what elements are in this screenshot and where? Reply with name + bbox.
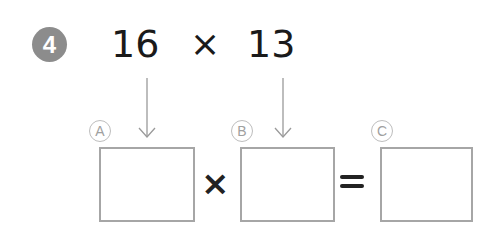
answer-box-a[interactable] (99, 147, 195, 222)
label-b: B (231, 120, 253, 142)
arrow-down-icon-b (275, 78, 291, 137)
arrow-down-icon-a (139, 78, 155, 137)
label-c: C (371, 120, 393, 142)
equals-sign (338, 172, 368, 192)
multiply-sign: × (201, 163, 230, 203)
label-a: A (89, 120, 111, 142)
answer-box-b[interactable] (240, 147, 335, 222)
answer-box-c[interactable] (380, 147, 473, 222)
